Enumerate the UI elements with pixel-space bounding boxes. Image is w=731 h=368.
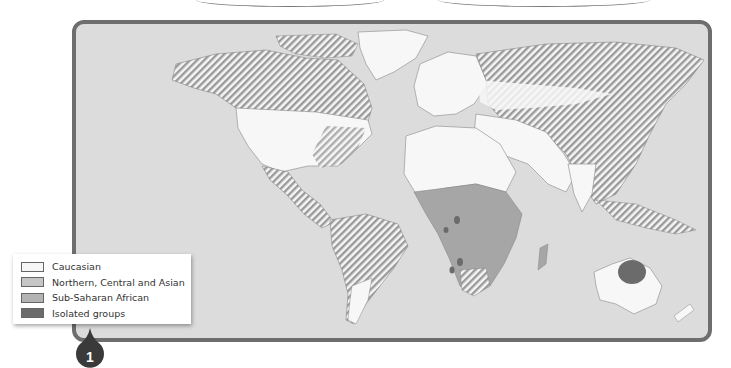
south-africa <box>460 268 490 296</box>
legend-swatch-northern-central-asian <box>21 277 44 287</box>
legend-item-isolated-groups: Isolated groups <box>21 306 191 322</box>
legend-swatch-sub-saharan-african <box>21 293 44 303</box>
legend-item-caucasian: Caucasian <box>21 259 191 275</box>
legend-label: Northern, Central and Asian <box>52 277 185 288</box>
legend-swatch-caucasian <box>21 262 44 272</box>
madagascar <box>538 244 548 270</box>
india <box>568 164 596 212</box>
map-legend: Caucasian Northern, Central and Asian Su… <box>13 254 191 324</box>
legend-swatch-isolated-groups <box>21 308 44 318</box>
title-underline-left <box>196 0 384 7</box>
europe <box>414 52 488 116</box>
isolated-group-africa-2 <box>444 227 449 233</box>
isolated-group-australia <box>618 260 646 284</box>
central-america <box>262 166 334 228</box>
legend-item-northern-central-asian: Northern, Central and Asian <box>21 275 191 291</box>
isolated-group-africa-1 <box>454 216 460 224</box>
isolated-group-africa-4 <box>450 267 455 274</box>
legend-item-sub-saharan-african: Sub-Saharan African <box>21 290 191 306</box>
badge-number: 1 <box>86 349 94 365</box>
new-zealand <box>674 304 694 322</box>
legend-label: Isolated groups <box>52 308 125 319</box>
legend-label: Caucasian <box>52 261 101 272</box>
legend-label: Sub-Saharan African <box>52 292 149 303</box>
isolated-group-africa-3 <box>457 258 463 266</box>
title-underline-right <box>438 0 650 7</box>
figure-number-badge: 1 <box>70 328 110 368</box>
south-america <box>330 214 408 324</box>
southeast-asia <box>596 200 696 234</box>
